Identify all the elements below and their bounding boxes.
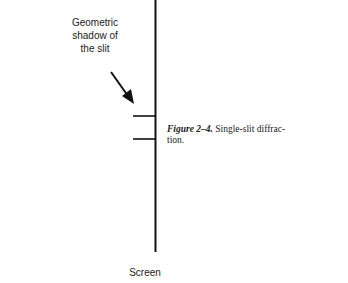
annotation-line-2: shadow of [52,29,138,42]
caption-text-cont: tion. [167,135,317,146]
figure-caption: Figure 2–4. Single-slit diffrac- tion. [167,124,317,146]
screen-label: Screen [115,266,175,279]
annotation-label: Geometric shadow of the slit [52,16,138,55]
annotation-line-1: Geometric [52,16,138,29]
arrow-icon [111,72,134,104]
caption-text: Single-slit diffrac- [215,124,285,134]
figure-number: Figure 2–4. [167,124,213,134]
annotation-line-3: the slit [52,42,138,55]
